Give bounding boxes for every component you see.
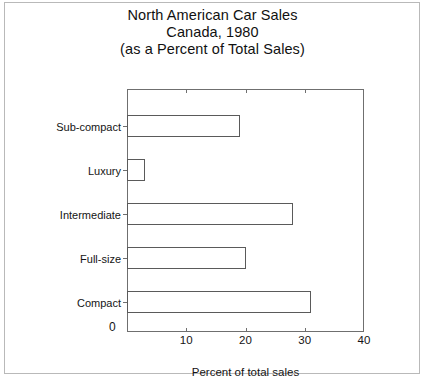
category-label-intermediate: Intermediate (60, 204, 121, 226)
plot-area: Sub-compactLuxuryIntermediateFull-sizeCo… (127, 89, 364, 332)
x-axis-tick-bottom (186, 328, 187, 332)
bar-intermediate: Intermediate (127, 203, 293, 225)
chart-title-line-2: Canada, 1980 (0, 24, 425, 41)
category-label-compact: Compact (77, 292, 121, 314)
x-axis-tick-bottom (246, 328, 247, 332)
y-axis-tick (123, 302, 127, 303)
x-axis-tick-top (246, 89, 247, 93)
bar-sub-compact: Sub-compact (127, 115, 240, 137)
xtick-label-20: 20 (239, 334, 252, 346)
xtick-label-40: 40 (358, 334, 371, 346)
xtick-label-10: 10 (180, 334, 193, 346)
y-axis-tick (123, 214, 127, 215)
x-axis-title: Percent of total sales (127, 366, 364, 378)
x-axis-tick-bottom (305, 328, 306, 332)
xtick-label-30: 30 (298, 334, 311, 346)
chart-title-line-1: North American Car Sales (0, 7, 425, 24)
bar-luxury: Luxury (127, 159, 145, 181)
chart-title: North American Car Sales Canada, 1980 (a… (0, 7, 425, 58)
y-axis-tick (123, 258, 127, 259)
category-label-full-size: Full-size (80, 248, 121, 270)
x-axis-tick-top (186, 89, 187, 93)
y-axis-tick (123, 126, 127, 127)
chart-title-line-3: (as a Percent of Total Sales) (0, 41, 425, 58)
xtick-label-zero: 0 (109, 320, 116, 334)
x-axis-tick-top (305, 89, 306, 93)
category-label-sub-compact: Sub-compact (56, 116, 121, 138)
y-axis-tick (123, 170, 127, 171)
category-label-luxury: Luxury (88, 160, 121, 182)
bar-compact: Compact (127, 291, 311, 313)
bar-full-size: Full-size (127, 247, 246, 269)
